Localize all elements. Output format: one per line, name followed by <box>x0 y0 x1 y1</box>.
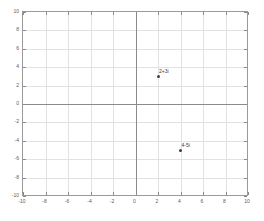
tick-mark-y-right <box>244 159 247 160</box>
tick-mark-x-bottom <box>91 192 92 195</box>
imaginary-axis-line <box>136 12 137 195</box>
y-tick-label: -8 <box>3 174 19 180</box>
y-tick-label: 4 <box>3 63 19 69</box>
y-tick-label: -4 <box>3 137 19 143</box>
complex-plane-figure: 2+3i4-5i -10-8-6-4-20246810 1086420-2-4-… <box>0 0 264 221</box>
tick-mark-y-right <box>244 141 247 142</box>
tick-mark-x-top <box>68 12 69 15</box>
tick-mark-x-bottom <box>248 192 249 195</box>
tick-mark-y-right <box>244 12 247 13</box>
tick-mark-y-left <box>23 49 26 50</box>
x-tick-label: 4 <box>170 198 190 204</box>
data-point-marker[interactable] <box>179 149 182 152</box>
tick-mark-x-bottom <box>68 192 69 195</box>
x-tick-label: 2 <box>147 198 167 204</box>
data-point-label: 2+3i <box>159 68 169 74</box>
y-tick-label: 6 <box>3 45 19 51</box>
y-tick-label: 10 <box>3 8 19 14</box>
x-tick-label: -6 <box>57 198 77 204</box>
y-tick-label: -2 <box>3 118 19 124</box>
x-tick-label: -8 <box>35 198 55 204</box>
tick-mark-x-top <box>181 12 182 15</box>
x-tick-label: 8 <box>215 198 235 204</box>
tick-mark-x-top <box>46 12 47 15</box>
tick-mark-y-right <box>244 86 247 87</box>
tick-mark-y-left <box>23 196 26 197</box>
tick-mark-y-right <box>244 30 247 31</box>
tick-mark-x-top <box>91 12 92 15</box>
tick-mark-x-bottom <box>113 192 114 195</box>
tick-mark-x-bottom <box>181 192 182 195</box>
tick-mark-y-right <box>244 178 247 179</box>
tick-mark-x-bottom <box>46 192 47 195</box>
x-tick-label: 6 <box>192 198 212 204</box>
tick-mark-x-top <box>113 12 114 15</box>
tick-mark-y-left <box>23 30 26 31</box>
tick-mark-y-left <box>23 122 26 123</box>
y-tick-label: -6 <box>3 155 19 161</box>
plot-area: 2+3i4-5i <box>22 11 248 196</box>
tick-mark-y-left <box>23 141 26 142</box>
tick-mark-y-right <box>244 196 247 197</box>
x-tick-label: -2 <box>102 198 122 204</box>
tick-mark-x-bottom <box>226 192 227 195</box>
tick-mark-y-left <box>23 178 26 179</box>
x-tick-label: -10 <box>12 198 32 204</box>
x-tick-label: 0 <box>125 198 145 204</box>
data-point-label: 4-5i <box>182 142 190 148</box>
tick-mark-x-top <box>158 12 159 15</box>
y-tick-label: -10 <box>3 192 19 198</box>
data-point-marker[interactable] <box>157 75 160 78</box>
x-tick-label: -4 <box>80 198 100 204</box>
tick-mark-x-bottom <box>23 192 24 195</box>
tick-mark-x-top <box>226 12 227 15</box>
tick-mark-y-right <box>244 49 247 50</box>
x-tick-label: 10 <box>237 198 257 204</box>
tick-mark-y-left <box>23 86 26 87</box>
tick-mark-y-left <box>23 159 26 160</box>
tick-mark-y-right <box>244 67 247 68</box>
tick-mark-y-right <box>244 122 247 123</box>
y-tick-label: 8 <box>3 26 19 32</box>
tick-mark-x-top <box>248 12 249 15</box>
tick-mark-y-left <box>23 12 26 13</box>
tick-mark-x-bottom <box>158 192 159 195</box>
y-tick-label: 0 <box>3 100 19 106</box>
tick-mark-x-bottom <box>203 192 204 195</box>
tick-mark-x-top <box>203 12 204 15</box>
y-tick-label: 2 <box>3 82 19 88</box>
tick-mark-y-left <box>23 67 26 68</box>
